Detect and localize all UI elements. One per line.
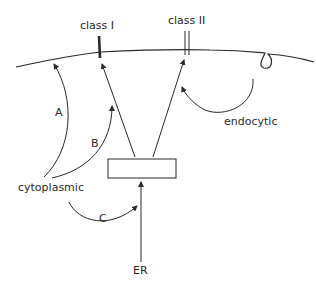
box-to-class-two-arrow (153, 60, 184, 157)
er-label: ER (133, 265, 148, 276)
pathway-b-label: B (91, 138, 99, 149)
pathway-a-arrow (44, 64, 68, 177)
pathway-a-label: A (55, 107, 63, 118)
endocytic-label: endocytic (224, 116, 277, 127)
central-compartment-box (108, 159, 176, 178)
diagram-canvas: class I class II A B cytoplasmic C endoc… (0, 0, 316, 286)
cell-membrane (16, 50, 314, 69)
diagram-svg (0, 0, 316, 286)
cytoplasmic-label: cytoplasmic (18, 182, 84, 193)
class-one-label: class I (80, 20, 114, 31)
pathway-c-label: C (99, 213, 107, 224)
box-to-class-one-arrow (102, 64, 135, 157)
class-one-marker (99, 36, 100, 58)
endocytic-arrow (182, 79, 253, 112)
class-two-label: class II (168, 15, 205, 26)
